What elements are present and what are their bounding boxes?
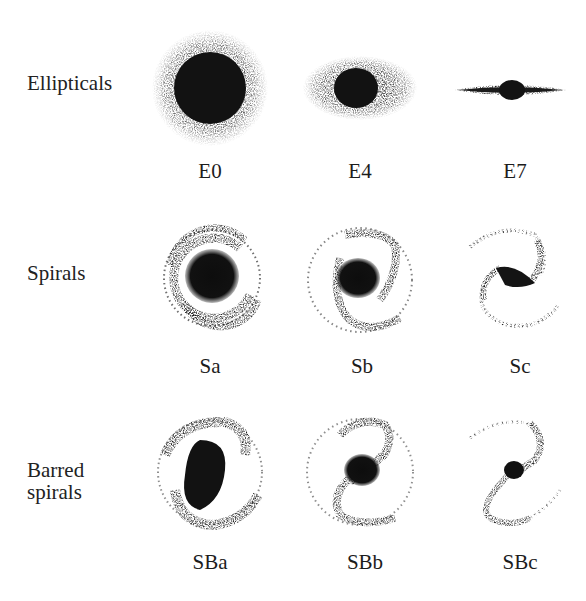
galaxy-diagram <box>0 0 586 601</box>
galaxy-sa <box>164 228 260 326</box>
type-label-sbb: SBb <box>315 551 415 573</box>
type-label-e4: E4 <box>310 160 410 182</box>
galaxy-sbc <box>470 422 560 523</box>
galaxy-sba <box>158 420 262 525</box>
type-label-sb: Sb <box>312 355 412 377</box>
galaxy-e0 <box>152 30 268 146</box>
type-label-sa: Sa <box>160 355 260 377</box>
type-label-e0: E0 <box>160 160 260 182</box>
galaxy-sc <box>470 231 558 326</box>
galaxy-sbb <box>307 419 413 525</box>
type-label-sc: Sc <box>470 355 570 377</box>
galaxy-sb <box>308 228 412 332</box>
type-label-sba: SBa <box>160 551 260 573</box>
galaxy-e4 <box>303 56 417 120</box>
type-label-e7: E7 <box>465 160 565 182</box>
type-label-sbc: SBc <box>470 551 570 573</box>
galaxy-e7 <box>455 80 566 100</box>
